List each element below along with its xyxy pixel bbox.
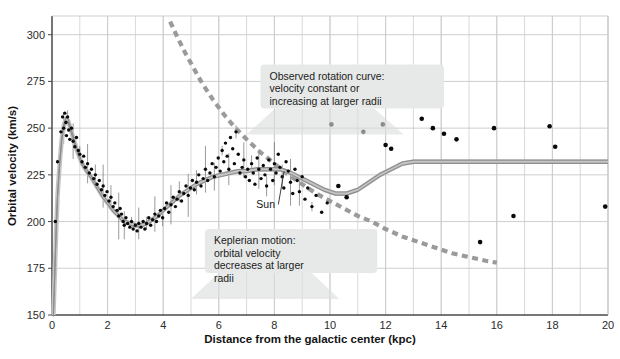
data-point [248, 179, 251, 182]
data-point [511, 214, 516, 219]
y-tick-label: 200 [27, 216, 45, 228]
data-point [56, 160, 59, 163]
data-point [167, 211, 170, 214]
data-point [137, 222, 140, 225]
data-point [208, 171, 211, 174]
data-point [117, 214, 120, 217]
data-point [246, 168, 249, 171]
data-point [135, 229, 138, 232]
data-point [131, 227, 134, 230]
data-point [71, 140, 74, 143]
data-point [90, 168, 93, 171]
data-point [180, 199, 183, 202]
data-point [178, 190, 181, 193]
data-point [113, 201, 116, 204]
data-point [191, 179, 194, 182]
data-point [344, 195, 349, 200]
data-point [120, 212, 123, 215]
data-point [253, 182, 256, 185]
x-tick-label: 20 [602, 319, 614, 331]
data-point [244, 175, 247, 178]
data-point [199, 184, 202, 187]
data-point [54, 220, 57, 223]
data-point [63, 111, 66, 114]
data-point [259, 177, 262, 180]
callout-line: decreases at larger [214, 259, 304, 271]
data-point [326, 201, 329, 204]
data-point [303, 197, 306, 200]
data-point [111, 205, 114, 208]
data-point [143, 227, 146, 230]
data-point [225, 154, 228, 157]
data-point [289, 181, 292, 184]
data-point [105, 190, 108, 193]
data-point [126, 222, 129, 225]
data-point [204, 168, 207, 171]
data-point [431, 126, 436, 131]
data-point [169, 203, 172, 206]
data-point [155, 220, 158, 223]
data-point [86, 162, 89, 165]
data-point [262, 164, 265, 167]
data-point [202, 177, 205, 180]
data-point [306, 186, 309, 189]
data-point [163, 207, 166, 210]
data-point [175, 197, 178, 200]
data-point [65, 134, 68, 137]
data-point [103, 194, 106, 197]
data-point [214, 166, 217, 169]
data-point [82, 154, 85, 157]
data-point [130, 220, 133, 223]
data-point [66, 115, 69, 118]
data-point [159, 209, 162, 212]
data-point [107, 199, 110, 202]
data-point [220, 149, 223, 152]
data-point [193, 188, 196, 191]
data-point [257, 168, 260, 171]
data-point [98, 179, 101, 182]
data-point [101, 184, 104, 187]
data-point [291, 192, 294, 195]
data-point [118, 207, 121, 210]
data-point [151, 218, 154, 221]
data-point [153, 212, 156, 215]
data-point [603, 204, 608, 209]
y-tick-label: 250 [27, 122, 45, 134]
data-point [184, 184, 187, 187]
data-point [123, 224, 126, 227]
data-point [189, 186, 192, 189]
data-point [442, 131, 447, 136]
callout-line: radii [214, 272, 234, 284]
data-point [128, 225, 131, 228]
data-point [73, 145, 76, 148]
data-point [240, 166, 243, 169]
data-point [187, 194, 190, 197]
x-tick-label: 4 [160, 319, 166, 331]
x-tick-label: 6 [216, 319, 222, 331]
data-point [68, 138, 71, 141]
data-point [75, 136, 78, 139]
data-point [492, 126, 497, 131]
data-point [62, 126, 65, 129]
data-point [64, 121, 67, 124]
data-point [172, 196, 175, 199]
data-point [553, 145, 558, 150]
data-point [61, 115, 64, 118]
sun-label: Sun [256, 198, 275, 210]
data-point [161, 216, 164, 219]
data-point [293, 168, 296, 171]
data-point [274, 171, 277, 174]
data-point [229, 136, 232, 139]
callout-line: increasing at larger radii [270, 95, 382, 107]
data-point [95, 182, 98, 185]
data-point [284, 160, 287, 163]
y-tick-label: 275 [27, 75, 45, 87]
data-point [242, 158, 245, 161]
data-point [141, 220, 144, 223]
data-point [252, 171, 255, 174]
data-point [174, 205, 177, 208]
data-point [165, 201, 168, 204]
data-point [271, 179, 274, 182]
y-tick-label: 225 [27, 169, 45, 181]
data-point [227, 168, 230, 171]
